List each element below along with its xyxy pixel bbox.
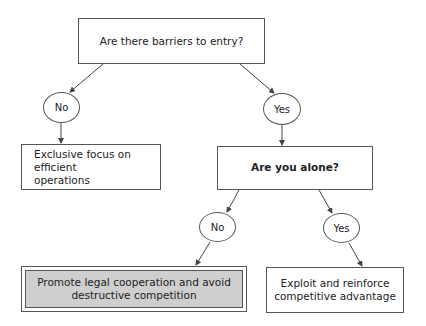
no-barriers-ellipse: No [43, 92, 80, 123]
advantage-line1: Exploit and reinforce [274, 277, 396, 290]
efficient-operations-line2: operations [34, 174, 160, 187]
alone-yes-ellipse: Yes [323, 213, 360, 243]
not-alone-ellipse: No [199, 212, 236, 242]
barriers-question-label: Are there barriers to entry? [100, 35, 243, 48]
alone-yes-label: Yes [333, 223, 349, 234]
advantage-line2: competitive advantage [274, 290, 396, 303]
alone-question-box: Are you alone? [217, 146, 373, 190]
yes-barriers-ellipse: Yes [263, 93, 301, 125]
not-alone-label: No [211, 222, 225, 233]
alone-question-label: Are you alone? [251, 161, 339, 174]
cooperation-line1: Promote legal cooperation and avoid [37, 276, 231, 289]
barriers-question-box: Are there barriers to entry? [78, 18, 265, 64]
cooperation-outcome-box: Promote legal cooperation and avoid dest… [21, 266, 247, 312]
cooperation-outcome-inner: Promote legal cooperation and avoid dest… [25, 270, 243, 308]
efficient-operations-line1: Exclusive focus on efficient [34, 148, 160, 174]
cooperation-line2: destructive competition [37, 289, 231, 302]
yes-label: Yes [274, 104, 290, 115]
no-label: No [55, 102, 69, 113]
efficient-operations-box: Exclusive focus on efficient operations [21, 144, 161, 190]
competitive-advantage-box: Exploit and reinforce competitive advant… [266, 267, 404, 313]
